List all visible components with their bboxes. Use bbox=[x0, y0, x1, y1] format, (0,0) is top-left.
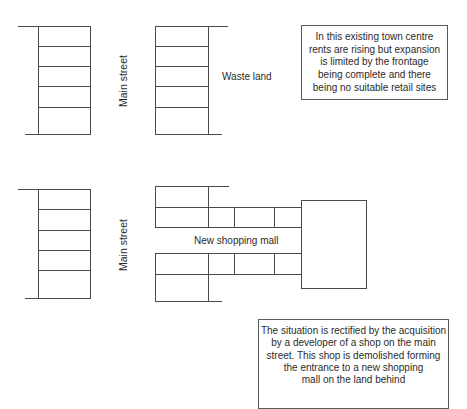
note-line: is limited by the frontage bbox=[302, 56, 447, 69]
waste-land-label: Waste land bbox=[222, 71, 272, 83]
note-line: mall on the land behind bbox=[259, 374, 448, 386]
note-line: being complete and there bbox=[302, 69, 447, 82]
note-line: In this existing town centre bbox=[302, 31, 447, 44]
note-line: the entrance to a new shopping bbox=[259, 362, 448, 374]
note-line: The situation is rectified by the acquis… bbox=[259, 325, 448, 337]
main-street-label-before: Main street bbox=[117, 55, 129, 107]
note-line: street. This shop is demolished forming bbox=[259, 350, 448, 362]
note-line: rents are rising but expansion bbox=[302, 44, 447, 57]
before-left-shop-row bbox=[18, 27, 91, 135]
new-shopping-mall-label: New shopping mall bbox=[194, 235, 279, 247]
note-line: by a developer of a shop on the main bbox=[259, 337, 448, 349]
note-box-before: In this existing town centre rents are r… bbox=[301, 25, 448, 100]
after-left-shop-row bbox=[18, 190, 91, 299]
note-box-after: The situation is rectified by the acquis… bbox=[258, 319, 449, 409]
main-street-label-after: Main street bbox=[117, 219, 129, 271]
note-line: being no suitable retail sites bbox=[302, 82, 447, 95]
before-right-shop-row bbox=[155, 27, 228, 135]
